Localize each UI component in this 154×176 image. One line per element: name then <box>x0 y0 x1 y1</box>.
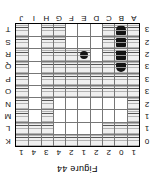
grid-cell-EM[interactable] <box>78 109 90 121</box>
grid-cell-IS[interactable] <box>28 36 40 48</box>
grid-cell-HP[interactable] <box>41 73 53 85</box>
grid-cell-IN[interactable] <box>28 97 40 109</box>
grid-cell-CS[interactable] <box>102 36 114 48</box>
grid-cell-EK[interactable] <box>78 134 90 146</box>
grid-cell-IP[interactable] <box>28 73 40 85</box>
grid-cell-DS[interactable] <box>90 36 102 48</box>
grid-cell-BK[interactable] <box>114 134 126 146</box>
grid-cell-HR[interactable] <box>41 48 53 60</box>
grid-cell-AM[interactable] <box>127 109 139 121</box>
grid-cell-AR[interactable] <box>127 48 139 60</box>
grid-cell-AL[interactable] <box>127 122 139 134</box>
grid-cell-FQ[interactable] <box>65 61 77 73</box>
grid-cell-BT[interactable] <box>114 24 126 36</box>
grid-cell-GN[interactable] <box>53 97 65 109</box>
grid-cell-FK[interactable] <box>65 134 77 146</box>
grid-cell-ET[interactable] <box>78 24 90 36</box>
grid-cell-JP[interactable] <box>16 73 28 85</box>
grid-cell-FR[interactable] <box>65 48 77 60</box>
grid-cell-AP[interactable] <box>127 73 139 85</box>
grid-cell-BO[interactable] <box>114 85 126 97</box>
puzzle-grid[interactable] <box>15 23 140 147</box>
grid-cell-DM[interactable] <box>90 109 102 121</box>
grid-cell-JL[interactable] <box>16 122 28 134</box>
grid-cell-CP[interactable] <box>102 73 114 85</box>
grid-cell-HO[interactable] <box>41 85 53 97</box>
grid-cell-CT[interactable] <box>102 24 114 36</box>
grid-cell-GK[interactable] <box>53 134 65 146</box>
grid-cell-CK[interactable] <box>102 134 114 146</box>
grid-cell-GO[interactable] <box>53 85 65 97</box>
grid-cell-IK[interactable] <box>28 134 40 146</box>
grid-cell-DL[interactable] <box>90 122 102 134</box>
grid-cell-DN[interactable] <box>90 97 102 109</box>
grid-cell-GS[interactable] <box>53 36 65 48</box>
grid-cell-GL[interactable] <box>53 122 65 134</box>
grid-cell-DO[interactable] <box>90 85 102 97</box>
grid-cell-HM[interactable] <box>41 109 53 121</box>
grid-cell-JO[interactable] <box>16 85 28 97</box>
grid-cell-IT[interactable] <box>28 24 40 36</box>
grid-cell-IR[interactable] <box>28 48 40 60</box>
grid-cell-IM[interactable] <box>28 109 40 121</box>
grid-cell-FO[interactable] <box>65 85 77 97</box>
grid-cell-FL[interactable] <box>65 122 77 134</box>
grid-cell-IL[interactable] <box>28 122 40 134</box>
grid-cell-BQ[interactable] <box>114 61 126 73</box>
grid-cell-JT[interactable] <box>16 24 28 36</box>
grid-cell-BS[interactable] <box>114 36 126 48</box>
grid-cell-FM[interactable] <box>65 109 77 121</box>
grid-cell-AK[interactable] <box>127 134 139 146</box>
grid-cell-DK[interactable] <box>90 134 102 146</box>
grid-cell-CR[interactable] <box>102 48 114 60</box>
grid-cell-EN[interactable] <box>78 97 90 109</box>
grid-cell-DR[interactable] <box>90 48 102 60</box>
grid-cell-BM[interactable] <box>114 109 126 121</box>
grid-cell-ER[interactable] <box>78 48 90 60</box>
grid-cell-HS[interactable] <box>41 36 53 48</box>
grid-cell-JS[interactable] <box>16 36 28 48</box>
grid-cell-BN[interactable] <box>114 97 126 109</box>
grid-cell-CQ[interactable] <box>102 61 114 73</box>
grid-cell-HT[interactable] <box>41 24 53 36</box>
grid-cell-JN[interactable] <box>16 97 28 109</box>
grid-cell-BR[interactable] <box>114 48 126 60</box>
grid-cell-CN[interactable] <box>102 97 114 109</box>
grid-cell-AQ[interactable] <box>127 61 139 73</box>
grid-cell-JK[interactable] <box>16 134 28 146</box>
grid-cell-CM[interactable] <box>102 109 114 121</box>
grid-cell-HL[interactable] <box>41 122 53 134</box>
grid-cell-EL[interactable] <box>78 122 90 134</box>
grid-cell-GT[interactable] <box>53 24 65 36</box>
grid-cell-GP[interactable] <box>53 73 65 85</box>
grid-cell-JM[interactable] <box>16 109 28 121</box>
grid-cell-FS[interactable] <box>65 36 77 48</box>
grid-cell-EQ[interactable] <box>78 61 90 73</box>
grid-cell-DP[interactable] <box>90 73 102 85</box>
grid-cell-EO[interactable] <box>78 85 90 97</box>
grid-cell-HK[interactable] <box>41 134 53 146</box>
grid-cell-DQ[interactable] <box>90 61 102 73</box>
grid-cell-BL[interactable] <box>114 122 126 134</box>
grid-cell-HN[interactable] <box>41 97 53 109</box>
grid-cell-FN[interactable] <box>65 97 77 109</box>
grid-cell-AT[interactable] <box>127 24 139 36</box>
grid-cell-GQ[interactable] <box>53 61 65 73</box>
grid-cell-EP[interactable] <box>78 73 90 85</box>
grid-cell-CL[interactable] <box>102 122 114 134</box>
grid-cell-GR[interactable] <box>53 48 65 60</box>
grid-cell-JQ[interactable] <box>16 61 28 73</box>
grid-cell-GM[interactable] <box>53 109 65 121</box>
grid-cell-DT[interactable] <box>90 24 102 36</box>
grid-cell-JR[interactable] <box>16 48 28 60</box>
grid-cell-FT[interactable] <box>65 24 77 36</box>
grid-cell-HQ[interactable] <box>41 61 53 73</box>
grid-cell-BP[interactable] <box>114 73 126 85</box>
grid-cell-IQ[interactable] <box>28 61 40 73</box>
grid-cell-CO[interactable] <box>102 85 114 97</box>
grid-cell-AN[interactable] <box>127 97 139 109</box>
grid-cell-AO[interactable] <box>127 85 139 97</box>
grid-cell-IO[interactable] <box>28 85 40 97</box>
grid-cell-ES[interactable] <box>78 36 90 48</box>
grid-cell-AS[interactable] <box>127 36 139 48</box>
